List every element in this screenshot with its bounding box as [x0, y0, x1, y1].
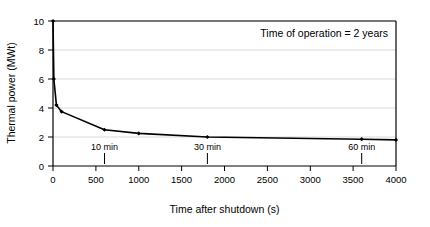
xtick-label-2000: 2000 — [214, 174, 235, 185]
ytick-label-2: 2 — [39, 132, 44, 143]
ytick-label-0: 0 — [39, 161, 44, 172]
xtick-label-500: 500 — [88, 174, 104, 185]
xtick-label-0: 0 — [50, 174, 55, 185]
decay-heat-chart-figure: 10 8 6 4 2 0 0 500 1000 1500 2000 2500 3… — [0, 0, 430, 227]
chart-canvas: 10 8 6 4 2 0 0 500 1000 1500 2000 2500 3… — [0, 0, 430, 227]
xtick-label-3000: 3000 — [300, 174, 321, 185]
xtick-label-1000: 1000 — [128, 174, 149, 185]
xtick-label-2500: 2500 — [257, 174, 278, 185]
marker-label-10min: 10 min — [91, 142, 118, 152]
x-axis-title: Time after shutdown (s) — [170, 203, 280, 215]
ytick-label-4: 4 — [39, 103, 44, 114]
operation-time-note: Time of operation = 2 years — [260, 27, 388, 39]
ytick-label-8: 8 — [39, 45, 44, 56]
marker-label-30min: 30 min — [194, 142, 221, 152]
xtick-label-3500: 3500 — [343, 174, 364, 185]
xtick-label-4000: 4000 — [385, 174, 406, 185]
marker-label-60min: 60 min — [348, 142, 375, 152]
xtick-label-1500: 1500 — [171, 174, 192, 185]
y-axis-title: Thermal power (MWt) — [5, 42, 17, 144]
ytick-label-10: 10 — [33, 16, 44, 27]
ytick-label-6: 6 — [39, 74, 44, 85]
